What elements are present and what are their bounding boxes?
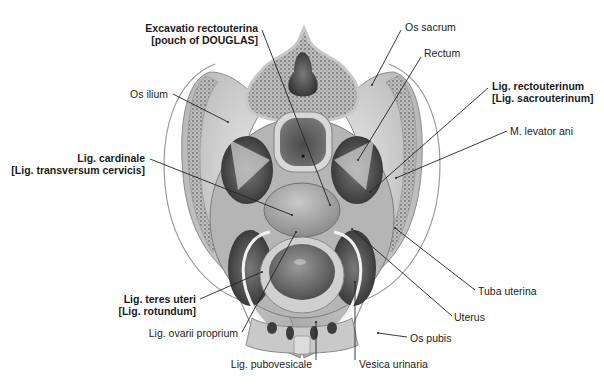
leader-dot-levator-ani <box>395 177 397 179</box>
leader-dot-os-sacrum <box>371 84 373 86</box>
leader-dot-lig-ovarii <box>295 231 297 233</box>
label-rectum: Rectum <box>424 47 460 59</box>
label-m-levator-ani: M. levator ani <box>510 125 573 137</box>
leader-dot-uterus <box>351 228 353 230</box>
label-lig-teres-uteri: Lig. teres uteri [Lig. rotundum] <box>118 293 196 317</box>
label-lig-rectouterinum: Lig. rectouterinum [Lig. sacrouterinum] <box>492 80 594 104</box>
label-lig-pubovesicale: Lig. pubovesicale <box>231 358 312 370</box>
leader-dot-lig-rectouterinum <box>369 191 371 193</box>
leader-dot-lig-pubovesicale <box>315 321 317 323</box>
label-vesica-urinaria: Vesica urinaria <box>359 358 428 370</box>
uterus <box>264 183 340 237</box>
os-sacrum <box>247 28 358 122</box>
leader-dot-rectum <box>357 159 359 161</box>
label-uterus: Uterus <box>454 311 485 323</box>
leader-line-tuba <box>395 228 475 290</box>
leader-dot-tuba <box>394 227 396 229</box>
leader-dot-lig-cardinale <box>291 214 293 216</box>
label-excavatio-rectouterina: Excavatio rectouterina [pouch of DOUGLAS… <box>145 22 258 46</box>
label-lig-cardinale: Lig. cardinale [Lig. transversum cervici… <box>11 152 145 176</box>
label-lig-ovarii-proprium: Lig. ovarii proprium <box>149 327 238 339</box>
label-tuba-uterina: Tuba uterina <box>478 285 537 297</box>
label-os-sacrum: Os sacrum <box>405 21 456 33</box>
label-os-pubis: Os pubis <box>410 332 451 344</box>
rectum <box>274 112 332 172</box>
leader-dot-vesica <box>354 281 356 283</box>
pelvis-anatomy-figure: Excavatio rectouterina [pouch of DOUGLAS… <box>0 0 604 390</box>
label-os-ilium: Os ilium <box>130 88 168 100</box>
leader-dot-excavatio <box>329 204 331 206</box>
leader-dot-os-pubis <box>377 332 379 334</box>
leader-line-os-pubis <box>378 333 407 337</box>
leader-dot-os-ilium <box>227 121 229 123</box>
leader-dot-lig-teres <box>261 271 263 273</box>
pelvis-illustration <box>0 0 604 390</box>
